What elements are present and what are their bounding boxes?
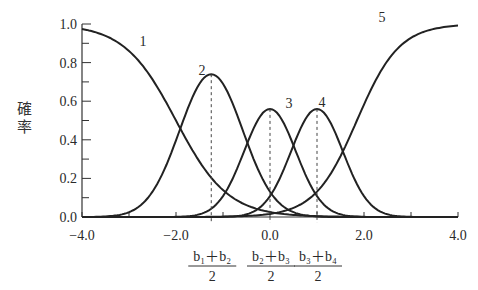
midpoint-label-numerator: b₁＋b₂ bbox=[193, 249, 231, 264]
series-label-1: 1 bbox=[140, 34, 147, 49]
series-label-3: 3 bbox=[286, 96, 293, 111]
x-tick-label: 4.0 bbox=[449, 228, 467, 243]
midpoint-label-denominator: 2 bbox=[268, 269, 275, 284]
y-tick-label: 0.2 bbox=[60, 171, 78, 186]
plot-area: 0.00.20.40.60.81.0−4.0−2.00.02.04.0b₁＋b₂… bbox=[0, 0, 478, 290]
midpoint-label-numerator: b₃＋b₄ bbox=[299, 249, 337, 264]
midpoint-label-denominator: 2 bbox=[315, 269, 322, 284]
x-tick-label: −4.0 bbox=[69, 228, 94, 243]
series-label-5: 5 bbox=[379, 10, 386, 25]
x-tick-label: 0.0 bbox=[261, 228, 279, 243]
y-tick-label: 0.4 bbox=[60, 133, 78, 148]
y-tick-label: 0.6 bbox=[60, 94, 78, 109]
midpoint-label-denominator: 2 bbox=[209, 269, 216, 284]
midpoint-label-numerator: b₂＋b₃ bbox=[252, 249, 290, 264]
y-axis-label: 確率 bbox=[17, 100, 35, 136]
probability-chart: 0.00.20.40.60.81.0−4.0−2.00.02.04.0b₁＋b₂… bbox=[0, 0, 478, 290]
series-label-2: 2 bbox=[199, 63, 206, 78]
y-tick-label: 0.8 bbox=[60, 56, 78, 71]
y-tick-label: 1.0 bbox=[60, 17, 78, 32]
x-tick-label: 2.0 bbox=[355, 228, 373, 243]
y-tick-label: 0.0 bbox=[60, 210, 78, 225]
series-label-4: 4 bbox=[319, 95, 326, 110]
x-tick-label: −2.0 bbox=[163, 228, 188, 243]
